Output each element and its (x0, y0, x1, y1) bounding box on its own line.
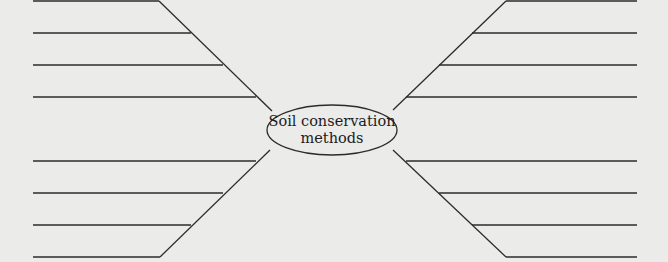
branch-spine (160, 150, 270, 257)
branch-bottom-left (33, 150, 270, 257)
branch-spine (159, 1, 272, 111)
center-label-line-1: Soil conservation (268, 113, 395, 130)
branch-bottom-right (393, 150, 637, 257)
center-label-line-2: methods (301, 130, 364, 147)
branch-spine (393, 1, 506, 110)
branch-top-left (33, 1, 272, 111)
center-node-label: Soil conservation methods (267, 105, 397, 155)
branch-spine (393, 150, 506, 257)
branch-top-right (393, 1, 637, 110)
